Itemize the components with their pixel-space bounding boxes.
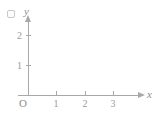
x-axis-line [18,95,140,96]
x-tick-mark [56,91,57,96]
bullet-marker-icon [7,10,15,18]
y-tick-label: 2 [12,31,22,41]
coordinate-plane-figure: y x O 1 2 3 1 2 [0,0,158,123]
y-axis-label: y [24,6,29,17]
x-tick-mark [113,91,114,96]
x-tick-label: 3 [107,99,119,109]
y-axis-line [28,22,29,96]
origin-label: O [19,98,27,109]
x-tick-mark [85,91,86,96]
x-axis-label: x [147,89,152,100]
y-tick-mark [26,35,31,36]
y-tick-label: 1 [12,61,22,71]
y-tick-mark [26,65,31,66]
arrow-right-icon [138,92,145,98]
x-tick-label: 2 [79,99,91,109]
x-tick-label: 1 [50,99,62,109]
